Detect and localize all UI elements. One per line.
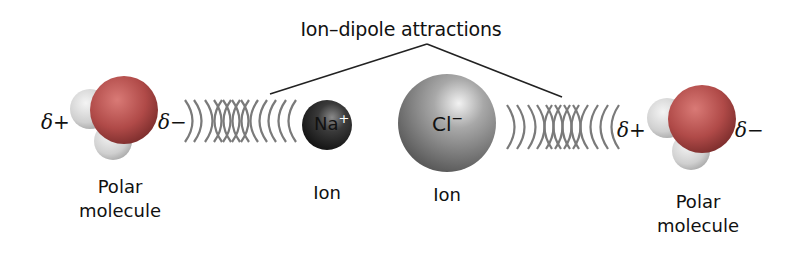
left-molecule-delta-plus: δ+ bbox=[41, 110, 70, 134]
anion-symbol-text: Cl bbox=[432, 112, 452, 136]
left-polar-molecule bbox=[70, 76, 158, 160]
right-polar-molecule bbox=[647, 85, 736, 170]
anion-charge: − bbox=[452, 110, 464, 126]
anion-symbol: Cl− bbox=[432, 110, 463, 136]
diagram-title: Ion–dipole attractions bbox=[0, 18, 802, 40]
anion-label: Ion bbox=[417, 183, 477, 207]
cation-charge: + bbox=[339, 111, 350, 126]
left-molecule-delta-minus: δ− bbox=[158, 110, 187, 134]
right-molecule-label-line1: Polar bbox=[648, 190, 748, 214]
cation-symbol: Na+ bbox=[314, 111, 349, 134]
cation-symbol-text: Na bbox=[314, 113, 339, 134]
right-molecule-delta-minus: δ− bbox=[735, 118, 764, 142]
right-molecule-label-line2: molecule bbox=[648, 214, 748, 238]
right-molecule-label: Polar molecule bbox=[648, 190, 748, 238]
left-attraction-waves bbox=[185, 100, 296, 142]
left-molecule-label-line1: Polar bbox=[70, 175, 170, 199]
left-molecule-label: Polar molecule bbox=[70, 175, 170, 223]
right-attraction-waves bbox=[507, 105, 619, 149]
cation-label: Ion bbox=[297, 181, 357, 205]
right-molecule-delta-plus: δ+ bbox=[617, 118, 646, 142]
left-molecule-label-line2: molecule bbox=[70, 199, 170, 223]
